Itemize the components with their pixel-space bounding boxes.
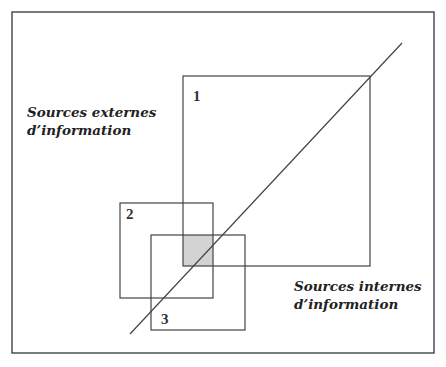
external-sources-label-line2: d’information xyxy=(27,122,131,138)
diagram-canvas: 1 2 3 Sources externes d’information Sou… xyxy=(0,0,446,367)
internal-sources-label-line2: d’information xyxy=(294,296,398,312)
box-2-label: 2 xyxy=(126,206,134,222)
box-3-label: 3 xyxy=(161,311,169,327)
external-sources-label-line1: Sources externes xyxy=(27,104,157,120)
internal-sources-label-line1: Sources internes xyxy=(294,278,422,294)
box-1-label: 1 xyxy=(193,88,201,104)
